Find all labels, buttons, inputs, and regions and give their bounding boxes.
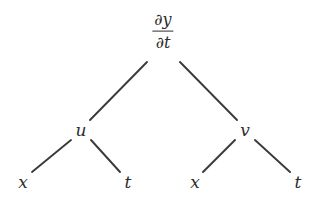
edge-u-to-t (91, 140, 120, 172)
root-node-partial-derivative: ∂y ∂t (152, 11, 173, 52)
fraction-denominator: ∂t (152, 33, 173, 52)
leaf-node-x-right: x (190, 174, 200, 191)
node-v: v (240, 122, 250, 139)
edge-root-to-u (90, 62, 147, 120)
node-u: u (76, 122, 87, 139)
leaf-node-x-left: x (18, 174, 28, 191)
leaf-node-t-right: t (295, 174, 302, 191)
edge-v-to-x (203, 140, 235, 172)
edge-v-to-t (255, 140, 290, 172)
fraction: ∂y ∂t (152, 11, 173, 52)
edge-u-to-x (32, 140, 71, 172)
edge-root-to-v (180, 62, 237, 120)
tree-diagram: ∂y ∂t u v x t x t (0, 0, 321, 200)
fraction-numerator: ∂y (152, 11, 173, 30)
fraction-bar (152, 31, 173, 32)
leaf-node-t-left: t (125, 174, 132, 191)
